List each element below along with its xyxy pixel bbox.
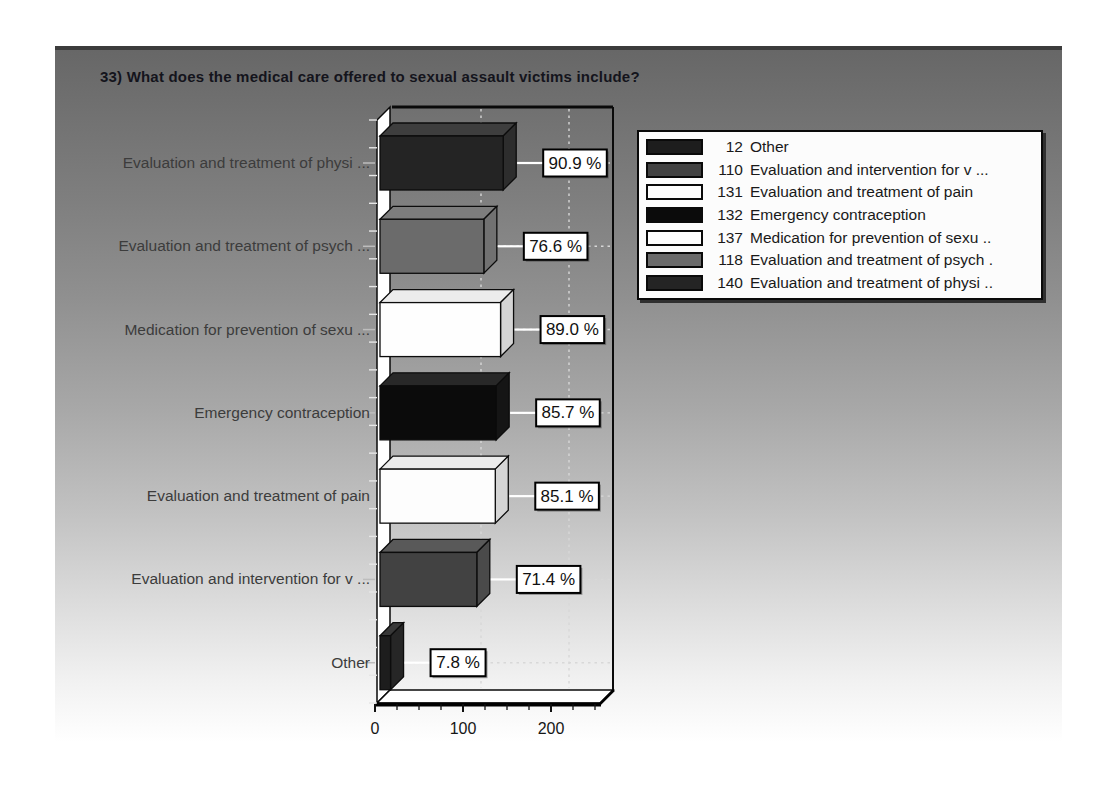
category-label: Evaluation and treatment of pain (147, 487, 370, 504)
category-label: Evaluation and treatment of physi ... (123, 154, 370, 171)
legend-swatch (646, 162, 703, 178)
bar (380, 219, 484, 273)
category-label: Medication for prevention of sexu ... (124, 321, 370, 338)
legend-count: 12 (711, 138, 743, 156)
percent-label: 7.8 % (436, 653, 479, 672)
legend: 12Other110Evaluation and intervention fo… (637, 130, 1043, 300)
legend-swatch (646, 275, 703, 291)
legend-item: 131Evaluation and treatment of pain (646, 181, 1041, 204)
bar (380, 469, 495, 523)
legend-label: Medication for prevention of sexu .. (750, 229, 1041, 247)
percent-label: 89.0 % (546, 320, 599, 339)
bar-top-face (380, 373, 509, 386)
bar (380, 636, 391, 690)
category-label: Evaluation and treatment of psych ... (118, 237, 370, 254)
bar-top-face (380, 456, 508, 469)
legend-swatch (646, 184, 703, 200)
legend-label: Evaluation and treatment of pain (750, 183, 1041, 201)
legend-label: Evaluation and treatment of physi .. (750, 274, 1041, 292)
legend-swatch (646, 139, 703, 155)
legend-count: 110 (711, 161, 743, 179)
scanned-report-page: { "title": "33) What does the medical ca… (0, 0, 1120, 789)
percent-label: 85.7 % (541, 403, 594, 422)
legend-swatch (646, 252, 703, 268)
x-tick-label: 200 (538, 720, 565, 737)
percent-label: 71.4 % (522, 570, 575, 589)
category-label: Emergency contraception (194, 404, 370, 421)
legend-label: Other (750, 138, 1041, 156)
percent-label: 76.6 % (529, 237, 582, 256)
legend-count: 132 (711, 206, 743, 224)
legend-item: 110Evaluation and intervention for v ... (646, 159, 1041, 182)
legend-item: 12Other (646, 136, 1041, 159)
legend-item: 140Evaluation and treatment of physi .. (646, 272, 1041, 295)
legend-item: 137Medication for prevention of sexu .. (646, 226, 1041, 249)
axis-floor (377, 690, 613, 703)
bar (380, 386, 496, 440)
category-label: Evaluation and intervention for v ... (131, 570, 370, 587)
legend-count: 140 (711, 274, 743, 292)
bar-top-face (380, 290, 514, 303)
legend-swatch (646, 230, 703, 246)
category-label: Other (331, 654, 370, 671)
legend-item: 132Emergency contraception (646, 204, 1041, 227)
bar-top-face (380, 123, 516, 136)
percent-label: 85.1 % (541, 487, 594, 506)
legend-item: 118Evaluation and treatment of psych . (646, 249, 1041, 272)
x-tick-label: 0 (371, 720, 380, 737)
legend-label: Evaluation and treatment of psych . (750, 251, 1041, 269)
chart-svg: 010020090.9 %Evaluation and treatment of… (0, 0, 1120, 789)
bar (380, 303, 501, 357)
percent-label: 90.9 % (549, 154, 602, 173)
bar-top-face (380, 539, 490, 552)
legend-label: Evaluation and intervention for v ... (750, 161, 1041, 179)
legend-label: Emergency contraception (750, 206, 1041, 224)
bar (380, 136, 503, 190)
legend-count: 137 (711, 229, 743, 247)
legend-count: 118 (711, 251, 743, 269)
legend-count: 131 (711, 183, 743, 201)
legend-swatch (646, 207, 703, 223)
bar-top-face (380, 206, 497, 219)
x-tick-label: 100 (450, 720, 477, 737)
bar (380, 552, 477, 606)
